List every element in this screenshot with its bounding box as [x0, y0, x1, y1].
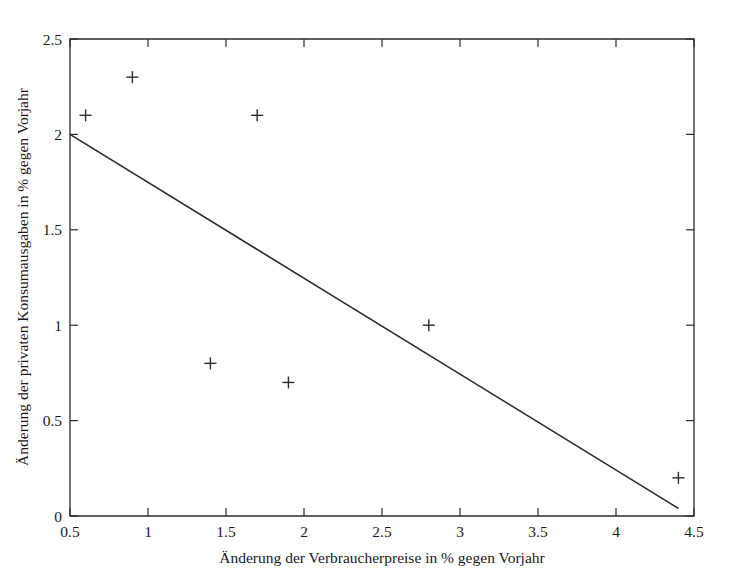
y-axis-title: Änderung der privaten Konsumausgaben in …	[14, 87, 31, 466]
y-tick-label: 1.5	[43, 221, 63, 238]
x-tick-label: 1	[144, 523, 152, 540]
x-tick-label: 3.5	[528, 523, 548, 540]
x-tick-label: 4.5	[684, 523, 704, 540]
figure-background	[0, 0, 730, 584]
x-axis-title: Änderung der Verbraucherpreise in % gege…	[219, 549, 545, 566]
x-tick-label: 3	[456, 523, 464, 540]
x-tick-label: 4	[612, 523, 620, 540]
y-tick-label: 1	[54, 317, 62, 334]
x-tick-label: 0.5	[60, 523, 80, 540]
y-tick-label: 2.5	[43, 31, 63, 48]
x-tick-label: 2.5	[372, 523, 392, 540]
scatter-plot-figure: 0.5 1 1.5 2 2.5 3 3.5 4 4.5 0 0.5 1 1.5 …	[0, 0, 730, 584]
y-tick-label: 0.5	[43, 412, 63, 429]
chart-canvas: 0.5 1 1.5 2 2.5 3 3.5 4 4.5 0 0.5 1 1.5 …	[0, 0, 730, 584]
x-tick-label: 2	[300, 523, 308, 540]
y-tick-label: 0	[54, 508, 62, 525]
x-tick-label: 1.5	[216, 523, 236, 540]
y-tick-label: 2	[54, 126, 62, 143]
